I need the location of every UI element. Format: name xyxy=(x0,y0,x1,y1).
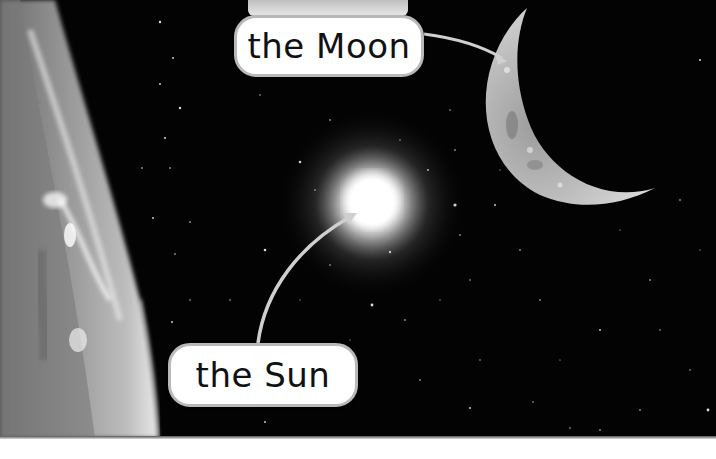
space-illustration: the Moon the Sun xyxy=(0,0,716,459)
sun-label-text: the Sun xyxy=(196,355,331,395)
sun-label: the Sun xyxy=(168,343,358,407)
earth xyxy=(0,0,158,438)
moon-label: the Moon xyxy=(234,15,424,77)
crescent-moon xyxy=(486,8,655,205)
moon-label-text: the Moon xyxy=(247,26,410,66)
sun xyxy=(277,108,467,298)
moon-label-tab xyxy=(248,0,408,16)
image-bottom-edge xyxy=(0,436,716,439)
